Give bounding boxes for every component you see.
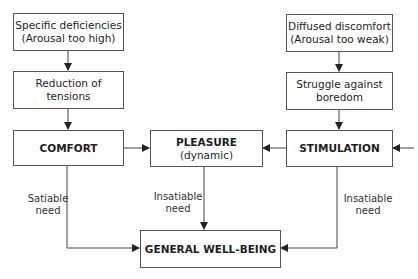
box-comfort: COMFORT — [13, 130, 124, 166]
label-text: need — [338, 205, 398, 217]
box-text: boredom — [316, 91, 363, 104]
label-text: need — [148, 203, 208, 215]
box-text: (dynamic) — [180, 149, 233, 162]
label-text: Satiable — [18, 193, 78, 205]
box-diffused-discomfort: Diffused discomfort (Arousal too weak) — [286, 14, 393, 52]
box-text: Reduction of tensions — [14, 77, 123, 103]
box-text: (Arousal too high) — [22, 32, 116, 45]
box-reduction-of-tensions: Reduction of tensions — [13, 71, 124, 109]
box-text: STIMULATION — [299, 142, 379, 155]
edge-label-stimulation-insatiable-need: Insatiable need — [338, 193, 398, 217]
box-specific-deficiencies: Specific deficiencies (Arousal too high) — [13, 13, 124, 51]
box-text: GENERAL WELL-BEING — [145, 243, 276, 256]
box-text: Struggle against — [296, 78, 383, 91]
box-text: Diffused discomfort — [288, 20, 391, 33]
label-text: Insatiable — [338, 193, 398, 205]
box-general-well-being: GENERAL WELL-BEING — [140, 230, 281, 268]
edge-label-satiable-need: Satiable need — [18, 193, 78, 217]
box-text: Specific deficiencies — [15, 19, 121, 32]
box-stimulation: STIMULATION — [286, 130, 393, 167]
edge-label-pleasure-insatiable-need: Insatiable need — [148, 191, 208, 215]
label-text: need — [18, 205, 78, 217]
label-text: Insatiable — [148, 191, 208, 203]
box-struggle-against-boredom: Struggle against boredom — [286, 72, 393, 110]
box-text: (Arousal too weak) — [290, 33, 389, 46]
box-pleasure: PLEASURE (dynamic) — [150, 130, 263, 167]
box-text: PLEASURE — [176, 136, 237, 149]
box-text: COMFORT — [40, 142, 98, 155]
